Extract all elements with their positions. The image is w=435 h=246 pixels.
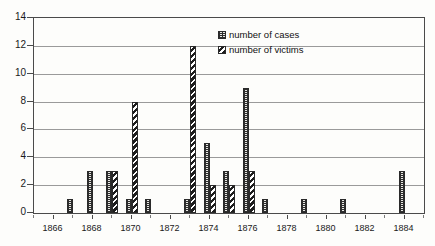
x-tick-label: 1884 [393, 223, 413, 233]
x-tick-mark [92, 215, 93, 219]
x-tick-label: 1876 [237, 223, 257, 233]
x-minor-tick-mark [189, 215, 190, 218]
bar-cases [145, 199, 151, 213]
x-axis: 1866186818701872187418761878188018821884 [33, 215, 425, 246]
x-tick-label: 1880 [315, 223, 335, 233]
y-tick-label: 4 [20, 151, 26, 161]
bar-cases [301, 199, 307, 213]
x-tick-mark [131, 215, 132, 219]
x-tick-mark [209, 215, 210, 219]
bar-victims [229, 185, 235, 213]
x-tick-label: 1882 [354, 223, 374, 233]
y-tick-label: 2 [20, 179, 26, 189]
x-minor-tick-mark [72, 215, 73, 218]
gridline [34, 157, 424, 158]
x-tick-mark [170, 215, 171, 219]
bar-chart: 02468101214 1866186818701872187418761878… [0, 0, 435, 246]
x-tick-label: 1866 [42, 223, 62, 233]
y-tick-label: 12 [15, 40, 26, 50]
x-tick-mark [365, 215, 366, 219]
x-tick-label: 1878 [276, 223, 296, 233]
legend-swatch-victims-icon [218, 46, 226, 54]
legend-label-cases: number of cases [229, 30, 299, 40]
bar-victims [210, 185, 216, 213]
gridline [34, 129, 424, 130]
legend-item-victims: number of victims [218, 42, 303, 57]
y-tick-label: 6 [20, 123, 26, 133]
bar-cases [340, 199, 346, 213]
bar-victims [249, 171, 255, 213]
x-minor-tick-mark [111, 215, 112, 218]
bar-victims [132, 102, 138, 213]
y-tick-label: 0 [20, 207, 26, 217]
y-axis: 02468101214 [0, 0, 33, 215]
x-minor-tick-mark [306, 215, 307, 218]
x-minor-tick-mark [150, 215, 151, 218]
bar-cases [67, 199, 73, 213]
x-tick-mark [287, 215, 288, 219]
bar-cases [87, 171, 93, 213]
chart-legend: number of cases number of victims [218, 27, 303, 57]
bar-cases [399, 171, 405, 213]
x-tick-mark [248, 215, 249, 219]
legend-item-cases: number of cases [218, 27, 303, 42]
gridline [34, 74, 424, 75]
x-minor-tick-mark [228, 215, 229, 218]
x-tick-label: 1870 [120, 223, 140, 233]
bar-victims [190, 46, 196, 213]
x-tick-label: 1868 [81, 223, 101, 233]
x-minor-tick-mark [33, 215, 34, 218]
y-tick-label: 8 [20, 96, 26, 106]
legend-label-victims: number of victims [229, 45, 303, 55]
x-tick-mark [326, 215, 327, 219]
gridline [34, 102, 424, 103]
y-tick-label: 14 [15, 12, 26, 22]
x-minor-tick-mark [384, 215, 385, 218]
legend-swatch-cases-icon [218, 31, 226, 39]
x-tick-mark [404, 215, 405, 219]
y-tick-label: 10 [15, 68, 26, 78]
x-minor-tick-mark [423, 215, 424, 218]
x-minor-tick-mark [267, 215, 268, 218]
x-tick-label: 1874 [198, 223, 218, 233]
x-tick-label: 1872 [159, 223, 179, 233]
bar-victims [112, 171, 118, 213]
bar-cases [262, 199, 268, 213]
x-minor-tick-mark [345, 215, 346, 218]
x-tick-mark [53, 215, 54, 219]
